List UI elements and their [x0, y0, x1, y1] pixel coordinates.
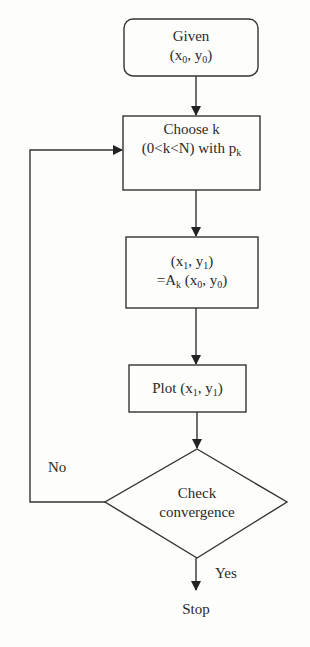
check-line1: Check: [117, 484, 277, 503]
choose-label: Choose k (0<k<N) with pk: [123, 120, 260, 158]
check-line2: convergence: [117, 503, 277, 522]
edge-check-choose-no: [30, 150, 122, 502]
apply-line1: (x1, y1): [126, 252, 258, 271]
no-label: No: [48, 458, 66, 477]
apply-line2: =Ak (x0, y0): [126, 271, 258, 290]
given-label: Given (x0, y0): [124, 27, 258, 65]
stop-label: Stop: [166, 600, 226, 619]
yes-label: Yes: [215, 564, 237, 583]
apply-label: (x1, y1) =Ak (x0, y0): [126, 252, 258, 290]
flowchart-canvas: [0, 0, 310, 647]
given-line2: (x0, y0): [124, 46, 258, 65]
choose-line1: Choose k: [123, 120, 260, 139]
check-label: Check convergence: [117, 484, 277, 522]
plot-label: Plot (x1, y1): [129, 379, 246, 398]
given-line1: Given: [124, 27, 258, 46]
choose-line2: (0<k<N) with pk: [123, 139, 260, 158]
